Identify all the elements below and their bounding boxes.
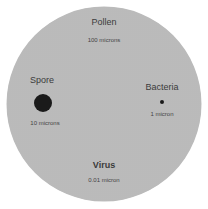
bacteria-particle bbox=[160, 100, 164, 104]
virus-label: Virus bbox=[93, 160, 115, 170]
bacteria-size-label: 1 micron bbox=[150, 111, 173, 117]
bacteria-label: Bacteria bbox=[145, 82, 178, 92]
spore-particle bbox=[34, 94, 52, 112]
pollen-size-label: 100 microns bbox=[88, 37, 121, 43]
pollen-label: Pollen bbox=[91, 17, 116, 27]
virus-size-label: 0.01 micron bbox=[88, 177, 119, 183]
spore-size-label: 10 microns bbox=[30, 120, 59, 126]
spore-label: Spore bbox=[30, 75, 54, 85]
